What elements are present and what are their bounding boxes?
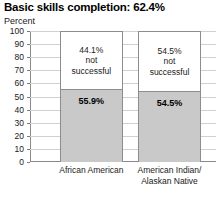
bar-segment-successful-label: 54.5%: [157, 98, 183, 108]
bar-segment-not-successful-label: 44.1% not successful: [70, 45, 114, 77]
y-tick-label: 80: [15, 52, 24, 62]
bar-segment-successful-label: 55.9%: [79, 96, 105, 106]
bar-stack: 54.5% not successful 54.5%: [138, 31, 201, 162]
chart-title: Basic skills completion: 62.4%: [4, 1, 165, 13]
bar-segment-successful: 54.5%: [138, 91, 201, 162]
y-tick-label: 50: [15, 92, 24, 102]
y-tick-label: 60: [15, 78, 24, 88]
plot-area: 100 90 80 70 60 50 4: [30, 31, 216, 162]
bar-stack: 44.1% not successful 55.9%: [60, 31, 123, 162]
y-tick-label: 20: [15, 131, 24, 141]
x-axis-category-labels: African American American Indian/ Alaska…: [30, 165, 216, 199]
y-tick-label: 90: [15, 39, 24, 49]
y-axis-unit-label: Percent: [4, 16, 35, 26]
y-tick-label: 10: [15, 144, 24, 154]
bar-segment-not-successful: 54.5% not successful: [138, 31, 201, 91]
bar-segment-successful: 55.9%: [60, 89, 123, 162]
y-tick-label: 30: [15, 118, 24, 128]
bars-layer: 44.1% not successful 55.9% 54.5% not suc…: [30, 31, 216, 162]
y-tick-label: 0: [19, 157, 24, 167]
bar-segment-not-successful-label: 54.5% not successful: [148, 46, 192, 78]
bar-group-american-indian-alaskan-native[interactable]: 54.5% not successful 54.5%: [138, 31, 201, 162]
y-tick-label: 70: [15, 65, 24, 75]
basic-skills-completion-chart: Basic skills completion: 62.4% Percent 1…: [0, 0, 222, 202]
y-tick-label: 40: [15, 105, 24, 115]
y-tick-label: 100: [10, 26, 24, 36]
bar-segment-not-successful: 44.1% not successful: [60, 31, 123, 89]
tick-mark: [27, 162, 30, 163]
x-axis-label-american-indian-alaskan-native: American Indian/ Alaskan Native: [123, 165, 216, 186]
bar-group-african-american[interactable]: 44.1% not successful 55.9%: [60, 31, 123, 162]
